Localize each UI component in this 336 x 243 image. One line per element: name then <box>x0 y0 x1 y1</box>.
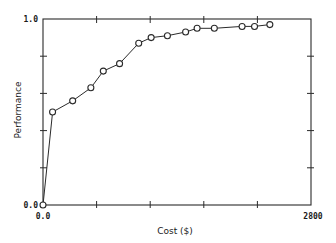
data-point-marker <box>252 23 258 29</box>
data-point-marker <box>239 23 245 29</box>
y-tick-label-min: 0.0 <box>24 201 39 210</box>
y-axis-title: Performance <box>13 81 23 138</box>
plot-frame <box>43 19 311 205</box>
data-series <box>40 22 273 208</box>
x-tick-label-max: 2800 <box>303 212 322 221</box>
data-point-marker <box>211 25 217 31</box>
y-tick-label-max: 1.0 <box>24 15 39 24</box>
data-point-marker <box>117 61 123 67</box>
data-point-marker <box>88 85 94 91</box>
series-line <box>43 25 270 205</box>
data-point-marker <box>70 98 76 104</box>
chart: 1.0 0.0 0.0 2800 Cost ($) Performance <box>0 0 336 243</box>
data-point-marker <box>136 40 142 46</box>
data-point-marker <box>100 68 106 74</box>
data-point-marker <box>267 22 273 28</box>
data-point-marker <box>183 29 189 35</box>
data-point-marker <box>148 35 154 41</box>
data-point-marker <box>194 25 200 31</box>
plot-border <box>43 19 311 205</box>
data-point-marker <box>50 109 56 115</box>
data-point-marker <box>40 202 46 208</box>
x-axis-title: Cost ($) <box>157 226 193 236</box>
x-tick-label-min: 0.0 <box>36 212 51 221</box>
axis-ticks <box>40 16 314 208</box>
data-point-marker <box>164 33 170 39</box>
